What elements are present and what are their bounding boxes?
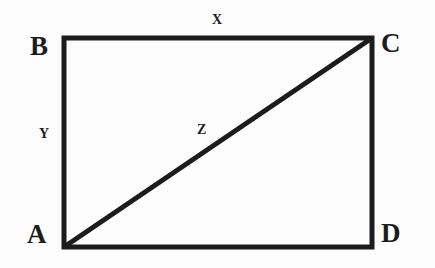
vertex-label-d: D bbox=[381, 220, 401, 247]
geometry-diagram: B C A D X Y Z bbox=[0, 0, 435, 268]
diagram-canvas bbox=[0, 0, 435, 268]
side-label-y: Y bbox=[39, 127, 49, 141]
side-label-x: X bbox=[212, 13, 222, 27]
vertex-label-a: A bbox=[27, 221, 47, 248]
side-label-z: Z bbox=[197, 123, 206, 137]
vertex-label-c: C bbox=[381, 30, 401, 57]
vertex-label-b: B bbox=[30, 33, 48, 60]
